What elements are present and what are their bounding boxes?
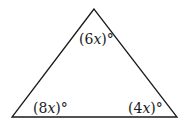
triangle-diagram: (6x)° (8x)° (4x)° [0,0,185,127]
angle-label-bottom-left: (8x)° [33,100,68,116]
angle-label-top: (6x)° [79,31,114,47]
angle-label-bottom-right: (4x)° [128,100,163,116]
